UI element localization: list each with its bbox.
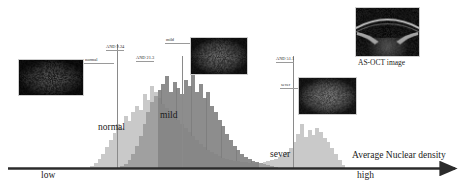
group-label-sever: sever — [270, 149, 290, 159]
threshold-label-normal-mild: AND 9.24 — [106, 44, 124, 51]
group-label-mild: mild — [160, 110, 177, 120]
thumbnail-sever-canvas — [299, 78, 356, 114]
thr-sever-high — [293, 56, 294, 168]
thumbnail-sever[interactable] — [298, 77, 357, 115]
axis-low-label: low — [41, 170, 55, 180]
thumbnail-mild[interactable] — [190, 37, 248, 75]
axis-high-label: high — [357, 170, 374, 180]
thumbnail-asoct-canvas — [356, 8, 419, 56]
thumbnail-mild-canvas — [191, 38, 247, 74]
thumbnail-asoct[interactable] — [355, 7, 420, 57]
group-label-normal: normal — [98, 122, 125, 132]
asoct-caption: AS-OCT image — [358, 58, 405, 67]
threshold-label-mild-sever: AND 21.3 — [136, 55, 154, 62]
leader-normal — [84, 63, 114, 64]
thr-mild-sever — [182, 56, 183, 168]
leader-sever — [280, 88, 298, 89]
thumbnail-normal-canvas — [19, 60, 83, 95]
x-axis-label: Average Nuclear density — [352, 150, 446, 160]
thr-normal-mild — [117, 44, 118, 168]
leader-mild — [165, 43, 190, 44]
threshold-label-sever-high: AND 51.1 — [276, 56, 294, 63]
thumbnail-normal[interactable] — [18, 59, 84, 96]
figure-root: AND 9.24 AND 21.3 AND 51.1 normal mild s… — [0, 0, 469, 193]
